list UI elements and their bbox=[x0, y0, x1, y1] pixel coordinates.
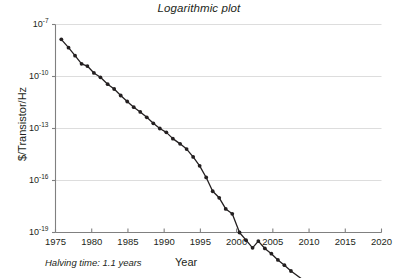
data-point bbox=[276, 258, 280, 262]
data-point bbox=[211, 189, 215, 193]
y-axis-tick-label: 10-13 bbox=[11, 123, 49, 133]
y-tick-exponent: -13 bbox=[39, 121, 48, 128]
data-point bbox=[217, 196, 221, 200]
data-point bbox=[151, 121, 155, 125]
y-tick-exponent: -19 bbox=[39, 225, 48, 232]
chart-title: Logarithmic plot bbox=[0, 2, 398, 14]
y-axis-tick-label: 10-10 bbox=[11, 71, 49, 81]
x-axis-tick-label: 2020 bbox=[362, 236, 398, 247]
data-point bbox=[269, 252, 273, 256]
data-point bbox=[230, 212, 234, 216]
data-point bbox=[59, 37, 63, 41]
y-axis-tick-label: 10-7 bbox=[11, 19, 49, 29]
y-tick-exponent: -16 bbox=[39, 173, 48, 180]
data-point bbox=[67, 46, 71, 50]
y-tick-mantissa: 10 bbox=[29, 227, 39, 237]
x-axis-tick-label: 2000 bbox=[217, 236, 257, 247]
data-point bbox=[73, 54, 77, 58]
y-tick-mantissa: 10 bbox=[29, 71, 39, 81]
x-axis-tick-label: 2015 bbox=[325, 236, 365, 247]
gridlines-group bbox=[56, 25, 382, 233]
data-point bbox=[138, 110, 142, 114]
y-tick-exponent: -7 bbox=[43, 17, 49, 24]
y-axis-tick-label: 10-16 bbox=[11, 175, 49, 185]
data-point bbox=[92, 71, 96, 75]
data-point bbox=[119, 94, 123, 98]
data-point bbox=[185, 147, 189, 151]
data-point bbox=[178, 142, 182, 146]
data-point bbox=[224, 207, 228, 211]
x-axis-title: Year bbox=[175, 256, 197, 268]
x-axis-tick-label: 1985 bbox=[108, 236, 148, 247]
x-axis-tick-label: 1995 bbox=[180, 236, 220, 247]
data-point bbox=[198, 164, 202, 168]
data-point bbox=[283, 263, 287, 267]
data-point bbox=[164, 130, 168, 134]
y-tick-exponent: -10 bbox=[39, 69, 48, 76]
data-point bbox=[112, 87, 116, 91]
y-axis-tick-label: 10-19 bbox=[11, 227, 49, 237]
logarithmic-plot-figure: Logarithmic plot $/Transistor/Hz Year Ha… bbox=[0, 0, 398, 278]
y-tick-mantissa: 10 bbox=[33, 19, 43, 29]
data-point bbox=[145, 115, 149, 119]
x-axis-tick-label: 2005 bbox=[253, 236, 293, 247]
halving-time-annotation: Halving time: 1.1 years bbox=[45, 257, 142, 268]
y-tick-mantissa: 10 bbox=[29, 175, 39, 185]
data-point bbox=[289, 269, 293, 273]
data-point bbox=[158, 127, 162, 131]
x-axis-tick-label: 1975 bbox=[36, 236, 76, 247]
x-axis-tick-label: 2010 bbox=[289, 236, 329, 247]
data-point bbox=[132, 105, 136, 109]
x-axis-tick-label: 1990 bbox=[144, 236, 184, 247]
data-point bbox=[125, 100, 129, 104]
data-point bbox=[204, 176, 208, 180]
data-point bbox=[99, 75, 103, 79]
data-point bbox=[171, 137, 175, 141]
data-point bbox=[80, 62, 84, 66]
data-point bbox=[238, 231, 242, 235]
y-tick-mantissa: 10 bbox=[29, 123, 39, 133]
data-point bbox=[191, 155, 195, 159]
data-point bbox=[263, 247, 267, 251]
data-point bbox=[106, 82, 110, 86]
x-axis-tick-label: 1980 bbox=[72, 236, 112, 247]
data-point bbox=[85, 64, 89, 68]
